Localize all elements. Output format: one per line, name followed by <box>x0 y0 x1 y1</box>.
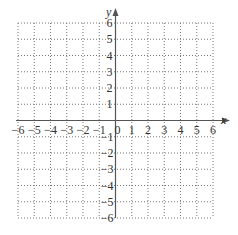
x-tick-label: −2 <box>77 123 90 137</box>
x-tick-label: 2 <box>145 123 151 137</box>
y-tick-label: 4 <box>107 49 113 63</box>
y-tick-label: 1 <box>107 97 113 111</box>
y-tick-label: 3 <box>107 65 113 79</box>
y-tick-label: −5 <box>101 195 114 209</box>
x-tick-label: 0 <box>115 123 121 137</box>
y-tick-label: 2 <box>107 81 113 95</box>
y-axis-arrow-icon <box>113 8 119 16</box>
y-tick-label: −2 <box>101 146 114 160</box>
x-tick-label: 5 <box>194 123 200 137</box>
y-tick-label: −6 <box>101 211 114 225</box>
x-tick-label: −4 <box>44 123 57 137</box>
x-tick-label: 6 <box>210 123 216 137</box>
y-axis-label: y <box>105 5 112 19</box>
x-tick-label: 4 <box>178 123 184 137</box>
x-tick-label: 1 <box>129 123 135 137</box>
y-tick-label: 5 <box>107 32 113 46</box>
x-axis-label: x <box>220 113 227 127</box>
y-tick-label: −3 <box>101 162 114 176</box>
y-tick-label: −1 <box>101 130 114 144</box>
x-tick-label: −3 <box>60 123 73 137</box>
coordinate-plane: −6−5−4−3−2−10123456654321−1−2−3−4−5−6 x … <box>0 0 238 235</box>
x-tick-label: −6 <box>12 123 25 137</box>
y-tick-label: −4 <box>101 179 114 193</box>
x-tick-label: −5 <box>28 123 41 137</box>
x-tick-label: 3 <box>161 123 167 137</box>
